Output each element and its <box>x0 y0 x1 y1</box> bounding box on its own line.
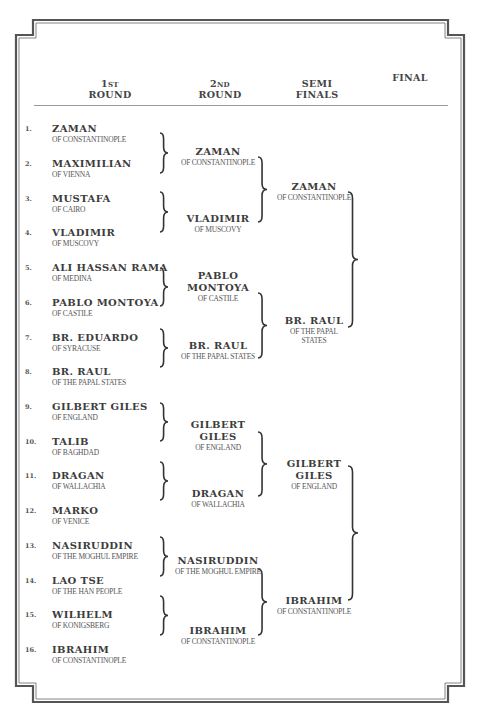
competitor-name: PABLO MONTOYA <box>178 270 258 294</box>
curly-brace-icon <box>160 329 170 367</box>
competitor-origin: OF ENGLAND <box>274 482 354 491</box>
seed-number: 10. <box>25 438 43 446</box>
competitor-name: MUSTAFA <box>52 193 111 205</box>
seed-number: 2. <box>25 160 43 168</box>
competitor-origin: OF CONSTANTINOPLE <box>259 607 369 616</box>
competitor-origin: OF WALLACHIA <box>52 482 106 491</box>
curly-brace-icon <box>160 268 170 306</box>
competitor-origin: OF MUSCOVY <box>173 225 263 234</box>
competitor-name: DRAGAN <box>52 470 105 482</box>
seed-number: 8. <box>25 368 43 376</box>
seed-number: 13. <box>25 542 43 550</box>
competitor-origin: OF CONSTANTINOPLE <box>52 656 126 665</box>
competitor-origin: OF CONSTANTINOPLE <box>163 158 273 167</box>
competitor-name: DRAGAN <box>173 488 263 500</box>
seed-number: 3. <box>25 195 43 203</box>
curly-brace-icon <box>258 293 269 358</box>
round2-winner: GILBERT GILESOF ENGLAND <box>178 419 258 452</box>
competitor-name: MARKO <box>52 505 98 517</box>
competitor-origin: OF CASTILE <box>52 309 92 318</box>
header-final-line1: FINAL <box>370 72 450 83</box>
competitor-name: BR. RAUL <box>279 315 349 327</box>
curly-brace-icon <box>258 157 269 222</box>
seed-number: 11. <box>25 472 43 480</box>
competitor-origin: OF THE MOGHUL EMPIRE <box>52 552 138 561</box>
competitor-origin: OF SYRACUSE <box>52 344 100 353</box>
header-divider <box>34 105 448 106</box>
semifinal-winner: GILBERT GILESOF ENGLAND <box>274 458 354 491</box>
round2-winner: IBRAHIMOF CONSTANTINOPLE <box>163 625 273 646</box>
round2-winner: VLADIMIROF MUSCOVY <box>173 213 263 234</box>
competitor-origin: OF CONSTANTINOPLE <box>163 637 273 646</box>
curly-brace-icon <box>160 192 170 232</box>
competitor-origin: OF THE HAN PEOPLE <box>52 587 122 596</box>
seed-number: 14. <box>25 577 43 585</box>
competitor-name: WILHELM <box>52 609 113 621</box>
competitor-origin: OF MEDINA <box>52 274 92 283</box>
seed-number: 15. <box>25 611 43 619</box>
seed-number: 12. <box>25 507 43 515</box>
competitor-name: LAO TSE <box>52 575 104 587</box>
competitor-origin: OF KONIGSBERG <box>52 621 109 630</box>
curly-brace-icon <box>348 192 360 327</box>
round2-winner: NASIRUDDINOF THE MOGHUL EMPIRE <box>168 555 268 576</box>
header-semis-line1: SEMI <box>277 78 357 89</box>
competitor-origin: OF ENGLAND <box>178 443 258 452</box>
seed-number: 6. <box>25 299 43 307</box>
header-round2-line1: 2nd <box>180 78 260 89</box>
header-semis-line2: FINALS <box>277 89 357 100</box>
competitor-name: NASIRUDDIN <box>52 540 133 552</box>
curly-brace-icon <box>160 462 170 500</box>
competitor-origin: OF THE PAPAL STATES <box>279 327 349 345</box>
header-round1: 1st ROUND <box>70 78 150 100</box>
curly-brace-icon <box>160 133 170 173</box>
seed-number: 1. <box>25 125 43 133</box>
seed-number: 7. <box>25 334 43 342</box>
header-round1-line2: ROUND <box>70 89 150 100</box>
competitor-origin: OF THE PAPAL STATES <box>178 352 258 361</box>
competitor-name: GILBERT GILES <box>178 419 258 443</box>
curly-brace-icon <box>160 537 170 576</box>
competitor-name: ALI HASSAN RAMA <box>52 262 168 274</box>
competitor-origin: OF MUSCOVY <box>52 239 99 248</box>
competitor-name: VLADIMIR <box>52 227 115 239</box>
competitor-name: PABLO MONTOYA <box>52 297 159 309</box>
seed-number: 9. <box>25 403 43 411</box>
seed-number: 4. <box>25 229 43 237</box>
competitor-origin: OF THE PAPAL STATES <box>52 378 126 387</box>
header-round1-line1: 1st <box>70 78 150 89</box>
competitor-origin: OF THE MOGHUL EMPIRE <box>168 567 268 576</box>
competitor-origin: OF CASTILE <box>178 294 258 303</box>
competitor-name: BR. RAUL <box>52 366 111 378</box>
round2-winner: PABLO MONTOYAOF CASTILE <box>178 270 258 303</box>
competitor-name: IBRAHIM <box>163 625 273 637</box>
semifinal-winner: BR. RAULOF THE PAPAL STATES <box>279 315 349 345</box>
competitor-origin: OF BAGHDAD <box>52 448 99 457</box>
header-final: FINAL <box>370 72 450 83</box>
seed-number: 5. <box>25 264 43 272</box>
competitor-origin: OF VENICE <box>52 517 89 526</box>
competitor-name: BR. EDUARDO <box>52 332 138 344</box>
curly-brace-icon <box>348 466 360 600</box>
competitor-name: IBRAHIM <box>52 644 109 656</box>
competitor-origin: OF VIENNA <box>52 170 90 179</box>
competitor-origin: OF CAIRO <box>52 205 85 214</box>
header-round2: 2nd ROUND <box>180 78 260 100</box>
competitor-name: GILBERT GILES <box>52 401 148 413</box>
competitor-origin: OF ENGLAND <box>52 413 98 422</box>
competitor-origin: OF WALLACHIA <box>173 500 263 509</box>
competitor-name: NASIRUDDIN <box>168 555 268 567</box>
round2-winner: BR. RAULOF THE PAPAL STATES <box>178 340 258 361</box>
curly-brace-icon <box>160 403 170 441</box>
competitor-name: BR. RAUL <box>178 340 258 352</box>
round2-winner: ZAMANOF CONSTANTINOPLE <box>163 146 273 167</box>
round2-winner: DRAGANOF WALLACHIA <box>173 488 263 509</box>
seed-number: 16. <box>25 646 43 654</box>
curly-brace-icon <box>160 596 170 635</box>
competitor-name: VLADIMIR <box>173 213 263 225</box>
competitor-name: TALIB <box>52 436 89 448</box>
competitor-origin: OF CONSTANTINOPLE <box>52 135 126 144</box>
competitor-name: MAXIMILIAN <box>52 158 132 170</box>
curly-brace-icon <box>258 569 269 635</box>
competitor-name: ZAMAN <box>163 146 273 158</box>
